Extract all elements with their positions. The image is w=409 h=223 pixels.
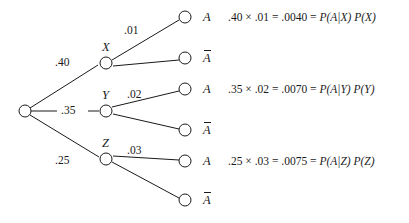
- node-label-X: X: [102, 41, 110, 54]
- equation-X-conditional: .01: [255, 11, 269, 23]
- node-label-Y: Y: [102, 89, 109, 102]
- root-node: [19, 105, 31, 117]
- prior-label-Y: .35: [61, 105, 75, 117]
- equation-Z: .25 × .03 = .0075 = P(A|Z) P(Z): [228, 155, 375, 167]
- node-Z: [100, 153, 112, 165]
- equation-Z-expr-prior: P(Z): [354, 155, 375, 167]
- conditional-label-Z: .03: [127, 145, 141, 157]
- edge-Y-to-A: [112, 91, 179, 107]
- outcome-label-Z-A: A: [203, 155, 211, 168]
- overbar-A-Z: A: [203, 194, 211, 207]
- prior-label-X: .40: [55, 57, 69, 69]
- equation-X-product: .0040: [281, 11, 307, 23]
- leaf-X-notA: [179, 52, 191, 64]
- outcome-label-Y-A: A: [203, 83, 211, 96]
- probability-tree-diagram: X Y Z .40 .35 .25 .01 .02 .03 A A A A A …: [0, 0, 409, 223]
- equation-Z-equals-1: =: [272, 155, 279, 167]
- equation-X-operator: ×: [245, 11, 252, 23]
- equation-X-equals-1: =: [272, 11, 279, 23]
- equation-Y-conditional: .02: [255, 83, 269, 95]
- outcome-label-X-A: A: [203, 11, 211, 24]
- leaf-Z-A: [179, 155, 191, 167]
- edge-root-to-Z: [30, 115, 99, 157]
- leaf-Y-A: [179, 83, 191, 95]
- node-Y: [100, 105, 112, 117]
- equation-Y-prior: .35: [228, 83, 242, 95]
- edge-Y-to-notA: [113, 114, 179, 129]
- equation-Z-prior: .25: [228, 155, 242, 167]
- equation-Y-expr-conditional: P(A|Y): [319, 83, 350, 95]
- outcome-label-X-notA: A: [203, 52, 211, 65]
- equation-X-equals-2: =: [310, 11, 317, 23]
- edge-Z-to-notA: [112, 162, 179, 198]
- equation-Y: .35 × .02 = .0070 = P(A|Y) P(Y): [228, 83, 375, 95]
- overbar-A-X: A: [203, 52, 211, 65]
- edge-Z-to-A: [113, 156, 179, 160]
- conditional-label-X: .01: [124, 25, 138, 37]
- equation-X-expr-conditional: P(A|X): [319, 11, 351, 23]
- equation-Y-expr-prior: P(Y): [354, 83, 375, 95]
- edge-root-to-X: [30, 65, 98, 108]
- outcome-label-Z-notA: A: [203, 194, 211, 207]
- equation-X-expr-prior: P(X): [354, 11, 376, 23]
- equation-Z-expr-conditional: P(A|Z): [319, 155, 350, 167]
- prior-label-Z: .25: [55, 155, 69, 167]
- edge-X-to-notA: [113, 60, 179, 66]
- overbar-A-Y: A: [203, 124, 211, 137]
- outcome-label-Y-notA: A: [203, 124, 211, 137]
- node-X: [100, 57, 112, 69]
- equation-Z-product: .0075: [281, 155, 307, 167]
- equation-X-prior: .40: [228, 11, 242, 23]
- edge-X-to-A: [112, 20, 179, 60]
- equation-Y-equals-2: =: [310, 83, 317, 95]
- equation-Z-operator: ×: [245, 155, 252, 167]
- equation-Y-operator: ×: [245, 83, 252, 95]
- leaf-X-A: [179, 11, 191, 23]
- equation-Z-equals-2: =: [310, 155, 317, 167]
- leaf-Z-notA: [179, 194, 191, 206]
- leaf-Y-notA: [179, 124, 191, 136]
- equation-Y-product: .0070: [281, 83, 307, 95]
- equation-Y-equals-1: =: [272, 83, 279, 95]
- conditional-label-Y: .02: [127, 89, 141, 101]
- equation-X: .40 × .01 = .0040 = P(A|X) P(X): [228, 11, 376, 23]
- equation-Z-conditional: .03: [255, 155, 269, 167]
- node-label-Z: Z: [102, 137, 109, 150]
